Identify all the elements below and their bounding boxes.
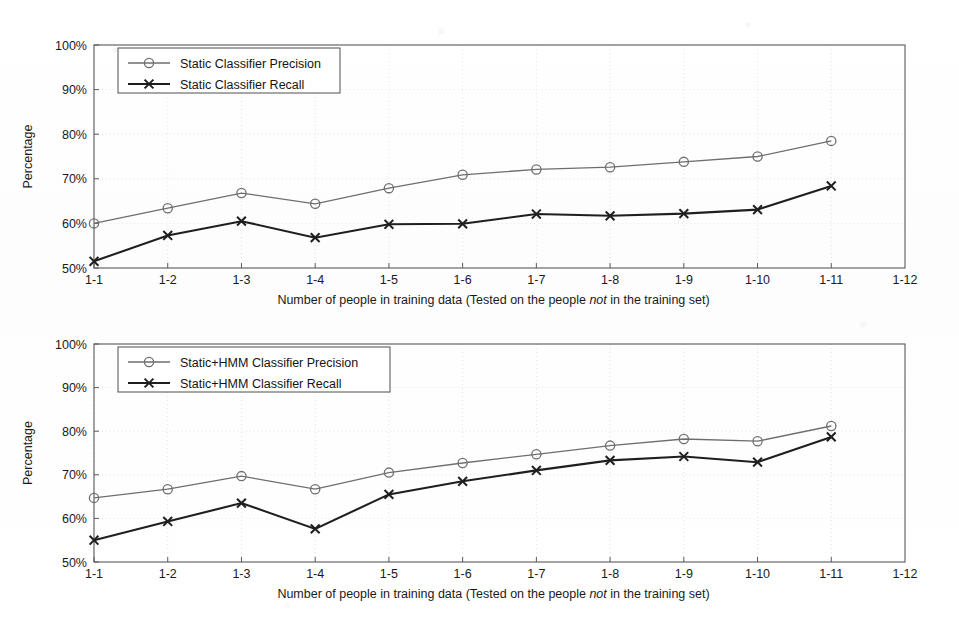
- x-tick-label: 1-12: [892, 567, 917, 581]
- y-tick-label: 80%: [62, 425, 87, 439]
- y-tick-label: 60%: [62, 512, 87, 526]
- legend-label: Static+HMM Classifier Precision: [180, 356, 358, 370]
- x-tick-label: 1-12: [892, 273, 917, 287]
- x-tick-label: 1-9: [675, 567, 693, 581]
- x-tick-label: 1-10: [745, 567, 770, 581]
- x-tick-label: 1-7: [527, 567, 545, 581]
- y-tick-label: 70%: [62, 172, 87, 186]
- x-tick-label: 1-8: [601, 273, 619, 287]
- x-tick-label: 1-5: [380, 567, 398, 581]
- chart-static-hmm-classifier: 50%60%70%80%90%100%1-11-21-31-41-51-61-7…: [0, 299, 959, 624]
- x-tick-label: 1-2: [159, 273, 177, 287]
- y-tick-label: 50%: [62, 262, 87, 276]
- x-tick-label: 1-8: [601, 567, 619, 581]
- y-tick-label: 70%: [62, 468, 87, 482]
- x-tick-label: 1-2: [159, 567, 177, 581]
- chart-canvas: 50%60%70%80%90%100%1-11-21-31-41-51-61-7…: [0, 0, 959, 312]
- y-tick-label: 80%: [62, 128, 87, 142]
- x-tick-label: 1-7: [527, 273, 545, 287]
- legend-label: Static Classifier Precision: [180, 57, 321, 71]
- legend-label: Static Classifier Recall: [180, 78, 304, 92]
- x-tick-label: 1-5: [380, 273, 398, 287]
- y-tick-label: 100%: [55, 338, 87, 352]
- legend-label: Static+HMM Classifier Recall: [180, 377, 342, 391]
- chart-canvas: 50%60%70%80%90%100%1-11-21-31-41-51-61-7…: [0, 299, 959, 624]
- x-tick-label: 1-4: [306, 273, 324, 287]
- y-axis-title: Percentage: [21, 421, 35, 485]
- y-tick-label: 60%: [62, 217, 87, 231]
- x-tick-label: 1-6: [454, 273, 472, 287]
- chart-legend: Static+HMM Classifier PrecisionStatic+HM…: [118, 347, 390, 392]
- x-tick-label: 1-11: [819, 567, 843, 581]
- y-tick-label: 90%: [62, 381, 87, 395]
- x-tick-label: 1-1: [85, 273, 103, 287]
- y-tick-label: 100%: [55, 39, 87, 53]
- y-tick-label: 90%: [62, 83, 87, 97]
- x-tick-label: 1-1: [85, 567, 103, 581]
- x-tick-label: 1-3: [232, 273, 250, 287]
- y-axis-title: Percentage: [21, 124, 35, 188]
- x-tick-label: 1-4: [306, 567, 324, 581]
- chart-static-classifier: 50%60%70%80%90%100%1-11-21-31-41-51-61-7…: [0, 0, 959, 312]
- x-tick-label: 1-3: [232, 567, 250, 581]
- x-tick-label: 1-6: [454, 567, 472, 581]
- x-tick-label: 1-11: [819, 273, 843, 287]
- x-tick-label: 1-9: [675, 273, 693, 287]
- x-tick-label: 1-10: [745, 273, 770, 287]
- x-axis-title: Number of people in training data (Teste…: [277, 587, 709, 601]
- y-tick-label: 50%: [62, 556, 87, 570]
- chart-legend: Static Classifier PrecisionStatic Classi…: [118, 48, 340, 93]
